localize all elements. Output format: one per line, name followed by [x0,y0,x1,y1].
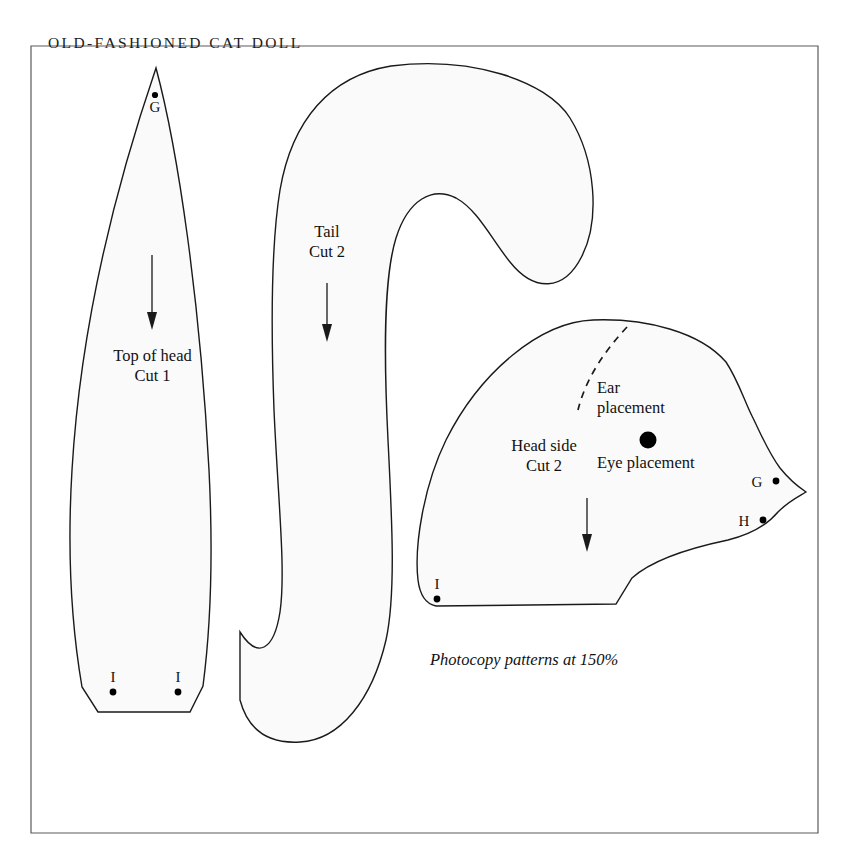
piece-label-tail-line1: Tail [286,222,368,242]
marker-letter-g-head-side: G [746,473,768,491]
piece-label-head-side-line2: Cut 2 [478,456,610,476]
marker-letter-i-head-side: I [425,575,449,593]
marker-dot-i-right-top-of-head [175,689,182,696]
ear-placement-label-line1: Ear [597,378,727,399]
ear-placement-label-line2: placement [597,398,727,419]
eye-placement-label: Eye placement [597,453,757,474]
piece-label-top-of-head-line1: Top of head [85,346,220,366]
marker-letter-h-head-side: H [733,512,755,530]
sheet-title: OLD-FASHIONED CAT DOLL [48,34,303,52]
piece-label-head-side-line1: Head side [478,436,610,456]
photocopy-instruction: Photocopy patterns at 150% [430,650,618,670]
eye-placement-dot [640,432,657,449]
marker-dot-i-left-top-of-head [110,689,117,696]
marker-letter-i-right-top-of-head: I [166,668,190,686]
marker-dot-i-head-side [434,596,441,603]
piece-label-top-of-head-line2: Cut 1 [85,366,220,386]
marker-dot-g-head-side [773,478,780,485]
pattern-sheet [0,0,847,847]
piece-label-tail-line2: Cut 2 [286,242,368,262]
marker-letter-i-left-top-of-head: I [101,668,125,686]
marker-dot-h-head-side [760,517,767,524]
marker-letter-g-top-of-head: G [143,98,167,116]
piece-top-of-head [70,68,211,712]
